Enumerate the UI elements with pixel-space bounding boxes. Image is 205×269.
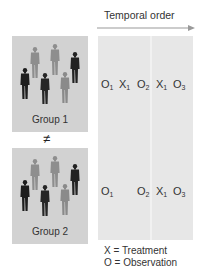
treatment-token: X1 [156,78,167,91]
observation-token: O1 [101,78,113,91]
treatment-token: X1 [156,185,167,198]
not-equal-symbol: ≠ [43,131,50,146]
observation-token: O2 [137,78,149,91]
observation-token: O1 [101,185,113,198]
group-2-label: Group 2 [12,226,88,237]
group-2-box: Group 2 [12,148,88,244]
group-1-label: Group 1 [12,114,88,125]
observation-token: O2 [137,185,149,198]
observation-token: O3 [173,78,185,91]
panel-divider [150,36,152,240]
group-1-box: Group 1 [12,36,88,132]
treatment-token: X1 [119,78,130,91]
legend-treatment: X = Treatment [104,245,167,256]
observation-token: O3 [173,185,185,198]
temporal-order-label: Temporal order [104,9,175,21]
legend-observation: O = Observation [104,257,177,268]
observation-panel [98,36,193,240]
arrow-right-icon [97,25,195,31]
